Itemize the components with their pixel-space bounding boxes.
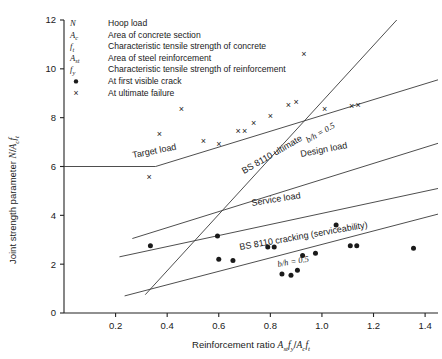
- legend-label-2: Characteristic tensile strength of concr…: [108, 41, 266, 51]
- y-tick-label-6: 6: [51, 161, 56, 172]
- data-point-ultimate-failure: ×: [216, 139, 221, 149]
- data-point-first-crack: [354, 243, 359, 248]
- data-point-first-crack: [216, 257, 221, 262]
- x-tick-label-1.0: 1.0: [315, 320, 328, 331]
- y-axis-title-text: Joint strength parameter: [7, 158, 18, 264]
- y-axis-title: Joint strength parameter N/Acft: [7, 135, 21, 264]
- data-point-ultimate-failure: ×: [286, 100, 291, 110]
- legend-label-5: At first visible crack: [108, 76, 182, 86]
- data-point-ultimate-failure: ×: [322, 104, 327, 114]
- data-point-ultimate-failure: ×: [201, 136, 206, 146]
- y-tick-label-10: 10: [45, 63, 56, 74]
- x-tick-label-0.2: 0.2: [109, 320, 122, 331]
- data-point-first-crack: [288, 273, 293, 278]
- legend-symbol-ft: ft: [70, 41, 74, 52]
- annotation-service-load: Service load: [251, 190, 301, 208]
- curve-design-load: [132, 143, 438, 238]
- y-tick-label-0: 0: [51, 307, 56, 318]
- data-point-ultimate-failure: ×: [268, 111, 273, 121]
- svg-text:Joint strength parameter N/Acf: Joint strength parameter N/Acft: [7, 135, 21, 264]
- annotation-bh-lower: b/h = 0.5: [277, 253, 311, 268]
- legend-label-4: Characteristic tensile strength of reinf…: [108, 64, 286, 74]
- annotation-bh-upper: b/h = 0.5: [304, 120, 337, 145]
- legend-marker-cross: ×: [73, 88, 78, 98]
- x-tick-label-0.8: 0.8: [264, 320, 277, 331]
- y-tick-label-8: 8: [51, 112, 56, 123]
- x-axis-sub-t2: t: [308, 345, 311, 353]
- y-axis-sub-t: t: [13, 135, 21, 138]
- data-point-ultimate-failure: ×: [157, 129, 162, 139]
- data-point-first-crack: [295, 268, 300, 273]
- y-tick-label-4: 4: [51, 210, 56, 221]
- y-axis-ticks: 024681012: [45, 14, 64, 318]
- x-tick-label-0.6: 0.6: [212, 320, 225, 331]
- data-point-first-crack: [215, 234, 220, 239]
- legend-symbol-Ast: Ast: [69, 53, 80, 64]
- data-point-ultimate-failure: ×: [242, 126, 247, 136]
- legend-symbol-fy: fy: [70, 64, 75, 75]
- y-tick-label-12: 12: [45, 14, 56, 25]
- data-point-first-crack: [348, 243, 353, 248]
- first-crack-markers: [148, 223, 416, 278]
- data-point-first-crack: [411, 246, 416, 251]
- annotation-bs8110-ultimate: BS 8110 ultimate: [240, 133, 304, 176]
- annotation-design-load: Design load: [299, 140, 348, 159]
- data-point-first-crack: [148, 243, 153, 248]
- data-point-ultimate-failure: ×: [294, 97, 299, 107]
- legend: NHoop loadAcArea of concrete sectionftCh…: [69, 18, 286, 98]
- legend-label-0: Hoop load: [108, 18, 147, 28]
- data-point-first-crack: [279, 271, 284, 276]
- x-axis-title: Reinforcement ratio Astfy/Acft: [192, 339, 311, 353]
- data-point-ultimate-failure: ×: [235, 126, 240, 136]
- svg-text:Reinforcement ratio Astfy/Acft: Reinforcement ratio Astfy/Acft: [192, 339, 311, 353]
- chart-figure: Joint strength parameter N/Acft 02468101…: [0, 0, 442, 359]
- chart-canvas: Joint strength parameter N/Acft 02468101…: [0, 0, 442, 359]
- legend-marker-dot: [74, 79, 78, 83]
- legend-symbol-N: N: [69, 18, 77, 28]
- legend-label-6: At ultimate failure: [108, 88, 175, 98]
- x-tick-label-1.2: 1.2: [367, 320, 380, 331]
- data-point-ultimate-failure: ×: [349, 101, 354, 111]
- x-tick-label-0.4: 0.4: [161, 320, 174, 331]
- data-point-ultimate-failure: ×: [251, 118, 256, 128]
- data-point-ultimate-failure: ×: [146, 172, 151, 182]
- x-axis-title-text: Reinforcement ratio: [192, 339, 278, 350]
- x-axis-ticks: 0.20.40.60.81.01.21.4: [109, 313, 432, 331]
- data-point-ultimate-failure: ×: [301, 49, 306, 59]
- data-point-ultimate-failure: ×: [179, 104, 184, 114]
- legend-label-1: Area of concrete section: [108, 30, 201, 40]
- data-point-ultimate-failure: ×: [355, 100, 360, 110]
- y-tick-label-2: 2: [51, 259, 56, 270]
- legend-label-3: Area of steel reinforcement: [108, 53, 212, 63]
- legend-symbol-Ac: Ac: [69, 30, 78, 41]
- annotation-target-load: Target load: [131, 142, 177, 160]
- data-point-first-crack: [230, 258, 235, 263]
- x-tick-label-1.4: 1.4: [418, 320, 431, 331]
- data-point-first-crack: [313, 251, 318, 256]
